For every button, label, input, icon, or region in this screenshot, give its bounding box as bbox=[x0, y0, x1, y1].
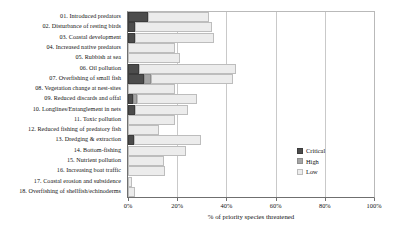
legend-swatch-critical-icon bbox=[297, 148, 303, 154]
x-tick-label: 80% bbox=[319, 201, 331, 210]
bar-segment-low bbox=[128, 53, 180, 63]
bar-row bbox=[128, 146, 186, 156]
x-tick-label: 40% bbox=[221, 201, 233, 210]
bar-segment-low bbox=[137, 94, 197, 104]
legend-label-low: Low bbox=[306, 168, 318, 175]
bar-row bbox=[128, 74, 233, 84]
y-axis-label: 15. Nutrient pollution bbox=[0, 155, 121, 165]
bar-segment-low bbox=[135, 105, 188, 115]
y-axis-labels: 01. Introduced predators02. Disturbance … bbox=[0, 11, 124, 198]
y-axis-label: 11. Toxic pollution bbox=[0, 114, 121, 124]
bar-row bbox=[128, 115, 175, 125]
y-axis-label: 12. Reduced fishing of predatory fish bbox=[0, 124, 121, 134]
bar-segment-critical bbox=[128, 22, 135, 32]
bar-segment-low bbox=[128, 177, 132, 187]
x-tick-label: 0% bbox=[124, 201, 133, 210]
y-axis-label: 03. Coastal development bbox=[0, 32, 121, 42]
bar-segment-critical bbox=[128, 64, 139, 74]
bar-segment-critical bbox=[128, 12, 148, 22]
bar-row bbox=[128, 156, 164, 166]
y-axis-label: 16. Increasing boat traffic bbox=[0, 165, 121, 175]
bar-segment-critical bbox=[128, 74, 144, 84]
bar-segment-low bbox=[128, 115, 175, 125]
y-axis-label: 01. Introduced predators bbox=[0, 11, 121, 21]
y-axis-label: 18. Overfishing of shellfish/echinoderms bbox=[0, 186, 121, 196]
bar-segment-low bbox=[151, 74, 232, 84]
bar-row bbox=[128, 12, 209, 22]
legend: Critical High Low bbox=[297, 146, 367, 178]
y-axis-label: 17. Coastal erosion and subsidence bbox=[0, 176, 121, 186]
bar-row bbox=[128, 33, 214, 43]
bar-row bbox=[128, 187, 135, 197]
y-axis-label: 07. Overfishing of small fish bbox=[0, 73, 121, 83]
x-axis-title: % of priority species threatened bbox=[127, 213, 375, 220]
y-axis-label: 08. Vegetation change at nest-sites bbox=[0, 83, 121, 93]
bar-segment-critical bbox=[128, 105, 135, 115]
legend-label-critical: Critical bbox=[306, 147, 325, 154]
bar-segment-low bbox=[128, 125, 159, 135]
bar-row bbox=[128, 64, 236, 74]
x-tick-label: 60% bbox=[270, 201, 282, 210]
bar-segment-low bbox=[128, 156, 164, 166]
bar-row bbox=[128, 135, 201, 145]
y-axis-label: 10. Longlines/Entanglement in nets bbox=[0, 104, 121, 114]
bar-row bbox=[128, 53, 180, 63]
y-axis-label: 13. Dredging & extraction bbox=[0, 134, 121, 144]
legend-swatch-high-icon bbox=[297, 158, 303, 164]
x-axis-ticks: 0%20%40%60%80%100% bbox=[127, 198, 375, 210]
legend-item-low: Low bbox=[297, 167, 367, 176]
y-axis-label: 14. Bottom-fishing bbox=[0, 145, 121, 155]
bar-row bbox=[128, 125, 159, 135]
bar-row bbox=[128, 43, 175, 53]
y-axis-label: 02. Disturbance of resting birds bbox=[0, 21, 121, 31]
legend-label-high: High bbox=[306, 158, 319, 165]
legend-swatch-low-icon bbox=[297, 169, 303, 175]
bar-segment-low bbox=[128, 166, 165, 176]
legend-item-critical: Critical bbox=[297, 146, 367, 155]
bar-segment-low bbox=[128, 84, 175, 94]
bar-segment-high bbox=[144, 74, 151, 84]
bar-segment-low bbox=[148, 12, 210, 22]
bar-segment-low bbox=[128, 43, 175, 53]
bar-segment-low bbox=[135, 33, 214, 43]
bar-segment-critical bbox=[128, 33, 135, 43]
bar-row bbox=[128, 105, 188, 115]
bar-row bbox=[128, 177, 132, 187]
bar-segment-low bbox=[128, 146, 186, 156]
y-axis-label: 05. Rubbish at sea bbox=[0, 52, 121, 62]
bar-segment-low bbox=[139, 64, 236, 74]
y-axis-label: 09. Reduced discards and offal bbox=[0, 93, 121, 103]
stacked-bar-chart: 01. Introduced predators02. Disturbance … bbox=[0, 0, 395, 236]
bar-row bbox=[128, 94, 197, 104]
x-tick-label: 100% bbox=[367, 201, 382, 210]
y-axis-label: 06. Oil pollution bbox=[0, 63, 121, 73]
legend-item-high: High bbox=[297, 157, 367, 166]
bar-segment-low bbox=[135, 22, 211, 32]
y-axis-label: 04. Increased native predators bbox=[0, 42, 121, 52]
bar-row bbox=[128, 22, 212, 32]
x-tick-label: 20% bbox=[171, 201, 183, 210]
bar-row bbox=[128, 166, 165, 176]
bar-row bbox=[128, 84, 175, 94]
bar-segment-low bbox=[134, 135, 200, 145]
bar-segment-low bbox=[128, 187, 135, 197]
